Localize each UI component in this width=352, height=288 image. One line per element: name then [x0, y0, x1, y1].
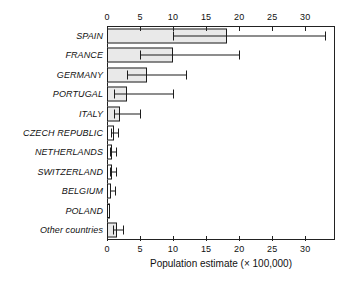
x-tick: [239, 26, 240, 31]
error-bar-line: [114, 94, 173, 95]
horizontal-bar-chart: SPAINFRANCEGERMANYPORTUGALITALYCZECH REP…: [0, 0, 352, 288]
category-label: PORTUGAL: [53, 89, 103, 99]
x-axis-title: Population estimate (× 100,000): [107, 258, 335, 269]
category-label: NETHERLANDS: [35, 147, 103, 157]
x-tick: [305, 26, 306, 31]
x-tick: [107, 236, 108, 241]
error-bar-line: [113, 230, 123, 231]
x-tick: [140, 236, 141, 241]
error-bar-cap: [115, 187, 116, 196]
x-tick: [140, 26, 141, 31]
x-tick: [206, 26, 207, 31]
error-bar-cap: [111, 129, 112, 138]
error-bar-line: [127, 74, 186, 75]
error-bar-cap: [173, 90, 174, 99]
category-label: BELGIUM: [62, 186, 103, 196]
x-tick-label: 20: [234, 244, 244, 254]
x-tick: [206, 236, 207, 241]
category-label: CZECH REPUBLIC: [23, 128, 103, 138]
error-bar-cap: [173, 31, 174, 40]
error-bar-cap: [114, 109, 115, 118]
error-bar-cap: [110, 148, 111, 157]
x-tick: [272, 26, 273, 31]
x-axis-top: 051015202530: [107, 26, 335, 27]
x-tick-label: 20: [234, 12, 244, 22]
category-label: SWITZERLAND: [37, 167, 103, 177]
x-tick-label: 0: [104, 244, 109, 254]
error-bar-cap: [123, 226, 124, 235]
category-label: SPAIN: [76, 31, 103, 41]
x-tick: [305, 236, 306, 241]
x-tick-label: 0: [104, 12, 109, 22]
error-bar-cap: [113, 226, 114, 235]
x-tick: [272, 236, 273, 241]
category-label: GERMANY: [57, 70, 103, 80]
x-tick-label: 5: [137, 244, 142, 254]
error-bar-line: [140, 55, 239, 56]
error-bar-cap: [110, 187, 111, 196]
category-label: POLAND: [65, 206, 103, 216]
error-bar-line: [111, 133, 118, 134]
x-tick-label: 25: [267, 244, 277, 254]
x-tick-label: 10: [168, 244, 178, 254]
x-tick: [239, 236, 240, 241]
x-tick-label: 30: [300, 12, 310, 22]
x-tick-label: 5: [137, 12, 142, 22]
error-bar-cap: [140, 109, 141, 118]
x-tick-label: 15: [201, 12, 211, 22]
error-bar-cap: [140, 51, 141, 60]
error-bar-cap: [325, 31, 326, 40]
error-bar-line: [173, 35, 325, 36]
x-tick-label: 10: [168, 12, 178, 22]
category-label: FRANCE: [65, 50, 103, 60]
x-tick: [173, 236, 174, 241]
x-tick: [173, 26, 174, 31]
error-bar-cap: [110, 167, 111, 176]
error-bar-cap: [116, 167, 117, 176]
error-bar-line: [114, 113, 140, 114]
x-axis-bottom: 051015202530: [107, 240, 335, 241]
x-tick-label: 30: [300, 244, 310, 254]
error-bar-cap: [118, 129, 119, 138]
error-bar-cap: [239, 51, 240, 60]
error-bar-cap: [186, 70, 187, 79]
category-label: Other countries: [40, 225, 103, 235]
bar: [107, 203, 110, 218]
x-tick-label: 25: [267, 12, 277, 22]
error-bar-cap: [127, 70, 128, 79]
error-bar-cap: [116, 148, 117, 157]
category-label: ITALY: [79, 109, 103, 119]
error-bar-cap: [114, 90, 115, 99]
x-tick-label: 15: [201, 244, 211, 254]
x-tick: [107, 26, 108, 31]
